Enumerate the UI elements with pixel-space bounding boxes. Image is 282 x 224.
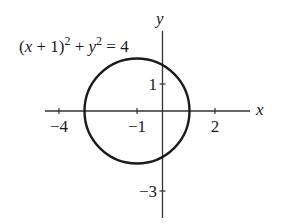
eq-rhs: = 4: [102, 37, 129, 56]
x-tick-label-neg1: −1: [128, 117, 146, 136]
eq-plus2: +: [70, 37, 88, 56]
x-tick-label-neg4: −4: [50, 117, 69, 136]
eq-plus1: + 1): [32, 37, 64, 56]
eq-y: y: [87, 37, 97, 56]
y-tick-label-1: 1: [149, 75, 158, 94]
x-axis-label: x: [255, 100, 264, 119]
x-tick-label-2: 2: [211, 117, 220, 136]
y-axis-label: y: [154, 9, 164, 28]
circle-graph: x y −4 −1 2 1 −3 (x + 1)2 + y2 = 4: [0, 0, 282, 224]
y-tick-label-neg3: −3: [139, 182, 157, 201]
equation-label: (x + 1)2 + y2 = 4: [19, 34, 129, 56]
